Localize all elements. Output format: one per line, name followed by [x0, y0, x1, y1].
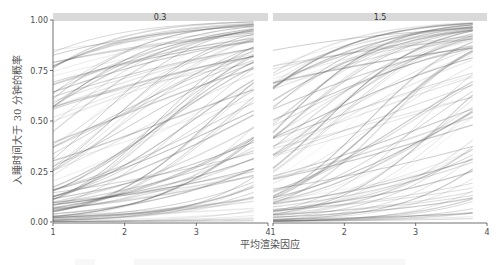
y-tick-label: 0.25 — [30, 168, 48, 177]
posterior-curve — [53, 27, 254, 107]
x-axis-right: 1234 — [270, 223, 489, 237]
curves-panel-right — [273, 23, 473, 222]
chart: 0.3 1.5 0.000.250.500.751.00 1234 1234 平… — [0, 0, 502, 265]
facet-label-right: 1.5 — [374, 13, 387, 22]
y-tick-label: 0.75 — [30, 67, 48, 76]
x-tick-label: 1 — [50, 228, 55, 237]
y-tick-label: 0.00 — [30, 218, 48, 227]
x-tick-label: 2 — [342, 228, 347, 237]
x-axis-title: 平均渲染因应 — [240, 238, 300, 250]
curves-panel-left — [53, 22, 254, 222]
x-tick-label: 2 — [122, 228, 127, 237]
y-tick-label: 1.00 — [30, 16, 48, 25]
y-axis: 0.000.250.500.751.00 — [30, 16, 53, 227]
posterior-curve — [53, 29, 254, 159]
y-tick-label: 0.50 — [30, 117, 48, 126]
figure-caption-clipped — [75, 259, 405, 265]
x-tick-label: 3 — [413, 228, 418, 237]
x-tick-label: 4 — [484, 228, 489, 237]
facet-label-left: 0.3 — [154, 13, 167, 22]
x-tick-label: 3 — [194, 228, 199, 237]
y-axis-title: 入睡时间大于 30 分钟的概率 — [11, 55, 23, 184]
x-tick-label: 1 — [270, 228, 275, 237]
x-axis-left: 1234 — [50, 223, 270, 237]
